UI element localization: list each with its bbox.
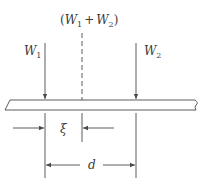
beam-diagram: (W1+W2) W1 W2 ξ d [0,0,207,184]
spacing-label: d [88,158,96,172]
beam [5,100,197,110]
offset-label: ξ [60,122,68,136]
load1-label: W1 [24,44,41,60]
load2-label: W2 [144,44,161,60]
resultant-label: (W1+W2) [60,13,118,29]
